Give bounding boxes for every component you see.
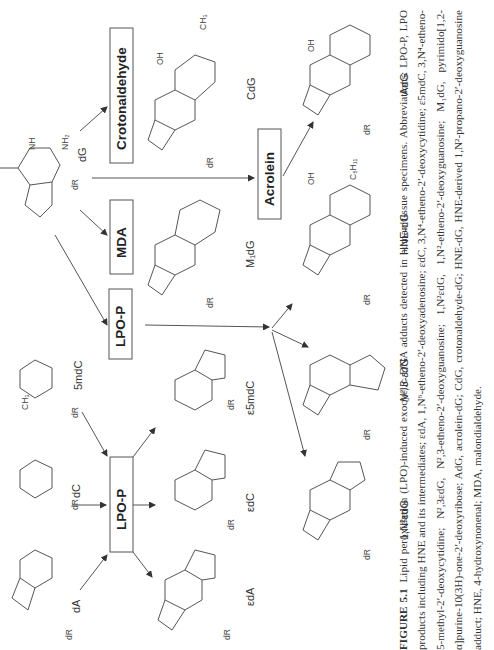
label-lpo-p-upper: LPO-P (113, 306, 128, 347)
structure-edA (158, 550, 215, 630)
structure-HNE-dG (303, 185, 370, 275)
structure-edC (175, 450, 225, 510)
atom-dR: dR (226, 399, 236, 410)
atom-dR: dR (362, 429, 372, 440)
label-lpo-p-lower: LPO-P (114, 489, 129, 530)
atom-dR: dR (205, 157, 215, 168)
atom-nh: NH (27, 138, 37, 150)
atom-oh: OH (306, 172, 316, 185)
label-M1dG: M₁dG (244, 240, 256, 268)
structure-M1dG (148, 200, 220, 295)
label-acrolein: Acrolein (262, 152, 277, 206)
atom-dR: dR (70, 499, 80, 510)
structure-dA (12, 550, 52, 610)
atom-ch3: CH₃ (20, 394, 30, 410)
label-e5mdC: ε5mdC (244, 381, 256, 415)
structure-5mdC (20, 360, 52, 398)
structure-dG (0, 148, 60, 217)
structure-e5mdC (175, 350, 225, 410)
figure-label: FIGURE 5.1 (397, 588, 409, 650)
atom-dR: dR (64, 629, 74, 640)
atom-dR: dR (222, 629, 232, 640)
atom-c5h11: C₅H₁₁ (348, 158, 358, 180)
caption-text: Lipid peroxidation (LPO)-induced exocycl… (397, 10, 483, 650)
label-dC: dC (70, 484, 82, 498)
atom-dR: dR (362, 294, 372, 305)
structure-N2-3-edG (303, 355, 385, 415)
figure-caption: FIGURE 5.1Lipid peroxidation (LPO)-induc… (394, 10, 486, 650)
atom-nh2: NH₂ (60, 134, 70, 150)
label-dG: dG (76, 147, 88, 162)
rotated-figure-page: Crotonaldehyde MDA LPO-P Acrolein LPO-P … (0, 0, 494, 650)
label-dA: dA (70, 599, 82, 613)
atom-oh: OH (306, 39, 316, 52)
atom-dR: dR (226, 519, 236, 530)
atom-dR: dR (70, 407, 80, 418)
structure-dC (20, 460, 52, 498)
atom-dR: dR (70, 179, 80, 190)
label-crotonaldehyde: Crotonaldehyde (114, 47, 129, 150)
label-CdG: CdG (245, 77, 257, 100)
label-edC: εdC (244, 493, 256, 512)
structure-AdG (303, 25, 370, 115)
label-mda: MDA (114, 227, 129, 258)
atom-oh: OH (155, 52, 165, 65)
atom-dR: dR (205, 297, 215, 308)
structure-1-N2-edG (303, 462, 365, 540)
atom-ch3: CH₃ (198, 14, 208, 30)
label-5mdC: 5mdC (72, 361, 84, 390)
atom-dR: dR (362, 124, 372, 135)
label-edA: εdA (244, 587, 256, 606)
atom-dR: dR (362, 549, 372, 560)
structure-CdG (148, 55, 215, 150)
